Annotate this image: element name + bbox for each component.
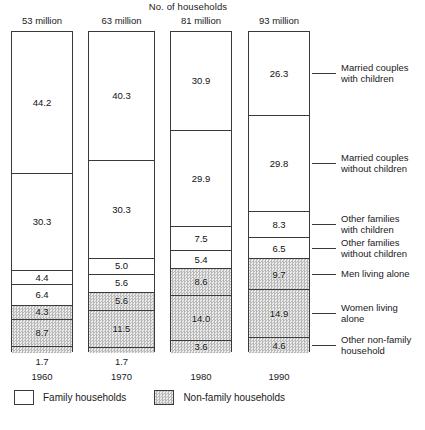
segment-value: 5.4 — [193, 255, 208, 265]
bar-segment: 5.4 — [171, 251, 231, 268]
segment-value: 29.9 — [191, 174, 212, 184]
bar-segment: 14.0 — [171, 296, 231, 341]
segment-value: 14.0 — [191, 314, 212, 324]
category-label: Women living alone — [341, 302, 398, 324]
leader-line — [312, 224, 336, 225]
segment-value: 6.4 — [34, 290, 49, 300]
column-total-1980: 81 million — [156, 15, 246, 26]
segment-value: 8.3 — [271, 220, 286, 230]
segment-value: 4.6 — [271, 341, 286, 351]
bar-segment: 8.7 — [12, 320, 72, 348]
leader-line — [312, 313, 336, 314]
chart-legend: Family households Non-family households — [14, 390, 313, 405]
bar-segment: 4.6 — [249, 338, 309, 353]
stacked-bar-1970: 40.330.35.05.65.611.51.7 — [88, 31, 155, 352]
legend-item-family: Family households — [14, 390, 126, 405]
leader-line — [312, 274, 336, 275]
legend-swatch-nonfamily — [154, 390, 174, 405]
category-label: Other families without children — [341, 237, 407, 259]
bar-segment: 1.7 — [12, 347, 72, 352]
segment-value: 44.2 — [32, 98, 53, 108]
segment-value: 7.5 — [193, 234, 208, 244]
bar-segment: 8.3 — [249, 212, 309, 239]
leader-line — [312, 248, 336, 249]
stacked-bar-1990: 26.329.88.36.59.714.94.6 — [248, 31, 310, 352]
bar-segment: 30.3 — [12, 174, 72, 271]
stacked-bar-1960: 44.230.34.46.44.38.71.7 — [11, 31, 73, 352]
stacked-bar-1980: 30.929.97.55.48.614.03.6 — [170, 31, 232, 352]
bar-segment: 30.9 — [171, 32, 231, 131]
category-label: Married couples without children — [341, 152, 409, 174]
segment-value: 6.5 — [271, 244, 286, 254]
bar-segment: 44.2 — [12, 32, 72, 174]
bar-segment: 3.6 — [171, 341, 231, 353]
segment-value: 8.6 — [193, 277, 208, 287]
bar-segment: 8.6 — [171, 269, 231, 297]
bar-segment: 5.0 — [89, 259, 154, 275]
leader-line — [312, 345, 336, 346]
category-label: Other families with children — [341, 213, 400, 235]
legend-swatch-family — [14, 390, 34, 405]
segment-value: 4.4 — [34, 273, 49, 283]
segment-value: 3.6 — [193, 342, 208, 352]
chart-canvas: No. of households 53 million63 million81… — [0, 0, 425, 430]
chart-title: No. of households — [108, 1, 268, 12]
column-total-1970: 63 million — [74, 15, 169, 26]
segment-value: 5.0 — [114, 261, 129, 271]
leader-line — [312, 163, 336, 164]
bar-segment: 4.4 — [12, 271, 72, 285]
legend-label-family: Family households — [43, 392, 126, 403]
category-label: Married couples with children — [341, 62, 409, 84]
year-label-1970: 1970 — [74, 371, 169, 382]
segment-value: 4.3 — [34, 307, 49, 317]
bar-segment: 7.5 — [171, 227, 231, 251]
category-label: Other non-family household — [341, 334, 411, 356]
column-total-1990: 93 million — [234, 15, 324, 26]
segment-value: 26.3 — [269, 69, 290, 79]
bar-segment: 29.8 — [249, 116, 309, 212]
year-label-1990: 1990 — [234, 371, 324, 382]
bar-segment: 26.3 — [249, 32, 309, 116]
bar-segment: 11.5 — [89, 311, 154, 348]
segment-value: 5.6 — [114, 296, 129, 306]
bar-segment: 5.6 — [89, 293, 154, 311]
bar-segment: 1.7 — [89, 348, 154, 353]
year-label-1980: 1980 — [156, 371, 246, 382]
segment-value: 11.5 — [112, 324, 132, 334]
category-label: Men living alone — [341, 268, 410, 279]
below-bar-value-1970: 1.7 — [74, 356, 169, 367]
bar-segment: 4.3 — [12, 306, 72, 320]
bar-segment: 5.6 — [89, 275, 154, 293]
segment-value: 40.3 — [111, 91, 132, 101]
segment-value: 30.9 — [191, 76, 212, 86]
segment-value: 14.9 — [269, 309, 290, 319]
bar-segment: 30.3 — [89, 161, 154, 258]
segment-value: 29.8 — [269, 159, 290, 169]
segment-value: 9.7 — [271, 270, 286, 280]
bar-segment: 9.7 — [249, 259, 309, 290]
segment-value: 30.3 — [111, 205, 132, 215]
leader-line — [312, 73, 336, 74]
bar-segment: 6.5 — [249, 238, 309, 259]
legend-label-nonfamily: Non-family households — [183, 392, 285, 403]
legend-item-nonfamily: Non-family households — [154, 390, 285, 405]
bar-segment: 14.9 — [249, 290, 309, 338]
segment-value: 30.3 — [32, 217, 53, 227]
bar-segment: 29.9 — [171, 131, 231, 227]
bar-segment: 40.3 — [89, 32, 154, 161]
segment-value: 5.6 — [114, 278, 129, 288]
segment-value: 8.7 — [34, 328, 49, 338]
bar-segment: 6.4 — [12, 285, 72, 306]
